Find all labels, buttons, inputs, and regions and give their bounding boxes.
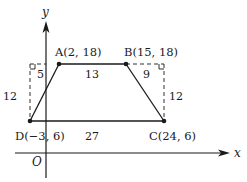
measure-AB: 13 — [85, 68, 99, 81]
point-D-label: D(−3, 6) — [15, 129, 65, 143]
axes: x y O — [15, 5, 241, 178]
point-C-label: C(24, 6) — [149, 129, 196, 143]
y-axis-label: y — [41, 5, 49, 19]
measure-left-height: 12 — [3, 90, 17, 103]
point-B-icon — [124, 62, 129, 67]
point-C-icon — [162, 119, 167, 124]
measure-DC: 27 — [85, 130, 99, 143]
measure-right-offset: 9 — [143, 68, 150, 81]
left-right-angle-icon — [30, 64, 35, 69]
origin-label: O — [32, 155, 42, 169]
point-A-label: A(2, 18) — [54, 45, 102, 59]
trapezoid-diagram: x y O A(2, 18) B(15, 18) C(24, 6) D(−3, … — [0, 0, 247, 182]
x-axis-label: x — [234, 146, 241, 160]
point-D-icon — [28, 119, 33, 124]
measure-right-height: 12 — [169, 90, 183, 103]
point-A-icon — [57, 62, 62, 67]
point-B-label: B(15, 18) — [124, 45, 178, 59]
right-right-angle-icon — [159, 64, 164, 69]
measure-left-offset: 5 — [37, 68, 44, 81]
side-DA — [30, 64, 59, 121]
